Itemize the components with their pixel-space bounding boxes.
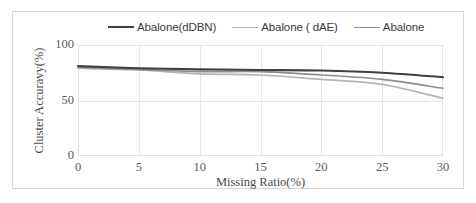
legend-entry-abalone-ddbn: Abalone(dDBN) [108, 21, 216, 33]
x-axis-title: Missing Ratio(%) [78, 175, 443, 190]
plot-area [78, 45, 443, 156]
legend-entry-abalone-dae: Abalone ( dAE) [232, 21, 338, 33]
legend-swatch-abalone [354, 27, 380, 28]
series-lines [78, 45, 443, 156]
y-axis-title: Cluster Accuravy(%) [32, 41, 47, 161]
chart-figure: Abalone(dDBN) Abalone ( dAE) Abalone 050… [0, 0, 476, 203]
x-tick-label: 0 [58, 160, 98, 175]
legend-label-abalone-ddbn: Abalone(dDBN) [137, 21, 216, 33]
x-tick-label: 5 [119, 160, 159, 175]
legend-swatch-abalone-ddbn [108, 26, 134, 28]
x-tick-label: 25 [362, 160, 402, 175]
x-tick-label: 20 [301, 160, 341, 175]
x-tick-label: 15 [241, 160, 281, 175]
chart-legend: Abalone(dDBN) Abalone ( dAE) Abalone [108, 18, 453, 36]
legend-entry-abalone: Abalone [354, 21, 425, 33]
x-tick-label: 30 [423, 160, 463, 175]
legend-swatch-abalone-dae [232, 27, 258, 28]
x-tick-label: 10 [180, 160, 220, 175]
legend-label-abalone-dae: Abalone ( dAE) [261, 21, 338, 33]
legend-label-abalone: Abalone [383, 21, 425, 33]
